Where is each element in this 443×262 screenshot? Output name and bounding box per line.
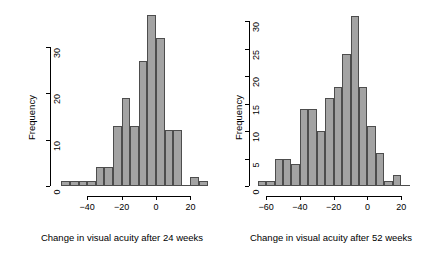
y-tick [245,186,249,187]
x-tick [367,196,368,200]
x-tick-label: −40 [292,202,307,212]
histogram-bar [130,126,139,186]
histogram-bar [351,16,359,187]
histogram-bar [147,15,156,186]
histogram-bar [291,164,299,186]
histogram-bar [376,153,384,186]
histogram-bar [190,177,199,186]
histogram-bar [61,181,70,186]
histogram-bar [317,131,325,186]
y-tick [46,186,50,187]
histogram-bar [342,54,350,186]
histogram-bar [79,181,88,186]
x-tick [334,196,335,200]
histogram-bar [334,87,342,186]
histogram-bar [165,130,174,186]
x-tick-label: 20 [396,202,406,212]
x-axis-label-left: Change in visual acuity after 24 weeks [41,232,203,243]
histogram-bar [70,181,79,186]
histogram-bar [359,87,367,186]
histogram-bar [300,109,308,186]
x-axis-label-right: Change in visual acuity after 52 weeks [250,232,412,243]
histogram-bar [139,61,148,186]
x-tick-label: −60 [258,202,273,212]
plot-area-left [0,0,221,186]
x-tick-label: 0 [365,202,370,212]
x-tick [156,196,157,200]
x-tick [122,196,123,200]
x-tick-label: −20 [326,202,341,212]
histogram-bar [87,181,96,186]
x-tick [300,196,301,200]
y-tick-label: 0 [52,185,62,199]
plot-area-right [221,0,442,186]
x-axis-line-left [87,196,190,197]
histogram-bar [156,38,165,186]
x-tick [87,196,88,200]
histogram-bar [113,126,122,186]
y-tick-label: 0 [251,185,261,199]
histogram-bar [104,167,113,186]
panel-52-weeks: Frequency 051015202530 −60−40−20020 Chan… [221,0,442,262]
histogram-bar [258,181,266,187]
histogram-bar [173,130,182,186]
histogram-bar [199,181,208,186]
histogram-bar [283,159,291,187]
x-tick-label: −20 [114,202,129,212]
histogram-bar [384,181,392,187]
histogram-bar [393,175,401,186]
x-tick [401,196,402,200]
x-tick-label: 20 [185,202,195,212]
x-tick [190,196,191,200]
histogram-bar [275,159,283,187]
histogram-bar [96,167,105,186]
x-tick-label: −40 [79,202,94,212]
panel-24-weeks: Frequency 0102030 −40−20020 Change in vi… [0,0,221,262]
histogram-bar [266,181,274,187]
histogram-bar [122,98,131,186]
histogram-bar [367,126,375,187]
histogram-figure: Frequency 0102030 −40−20020 Change in vi… [0,0,443,262]
x-tick [266,196,267,200]
histogram-bar [325,98,333,186]
histogram-bar [308,109,316,186]
x-tick-label: 0 [154,202,159,212]
